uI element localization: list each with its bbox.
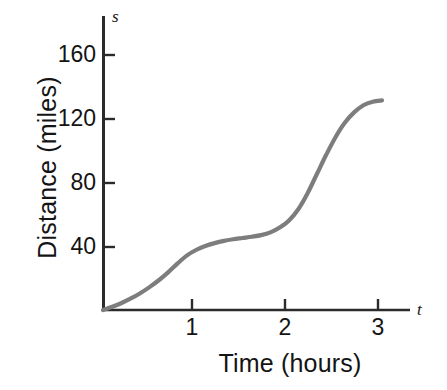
plot-area [0,0,447,390]
x-tick-marks [192,299,378,310]
distance-curve [103,100,382,310]
distance-time-chart: Distance (miles) Time (hours) s t 160 12… [0,0,447,390]
